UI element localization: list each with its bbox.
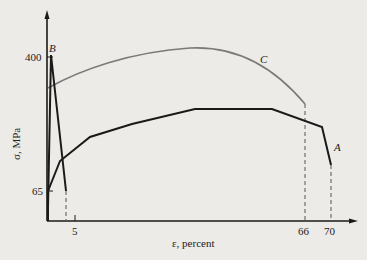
y-axis-title: σ, MPa xyxy=(10,128,22,160)
curve-label-a: A xyxy=(333,141,341,153)
x-tick-label-5: 5 xyxy=(72,225,78,237)
y-tick-label-400: 400 xyxy=(25,51,42,63)
curve-label-c: C xyxy=(260,53,268,65)
stress-strain-chart: 400 65 5 66 70 B C A ε, percent σ, MPa xyxy=(0,0,367,260)
x-axis-arrow-icon xyxy=(349,219,358,224)
y-axis-arrow-icon xyxy=(45,10,50,19)
curve-label-b: B xyxy=(49,42,56,54)
x-axis-title: ε, percent xyxy=(172,237,215,249)
curve-a xyxy=(48,109,331,191)
y-tick-label-65: 65 xyxy=(32,185,44,197)
x-tick-label-70: 70 xyxy=(324,225,336,237)
x-tick-label-66: 66 xyxy=(298,225,310,237)
